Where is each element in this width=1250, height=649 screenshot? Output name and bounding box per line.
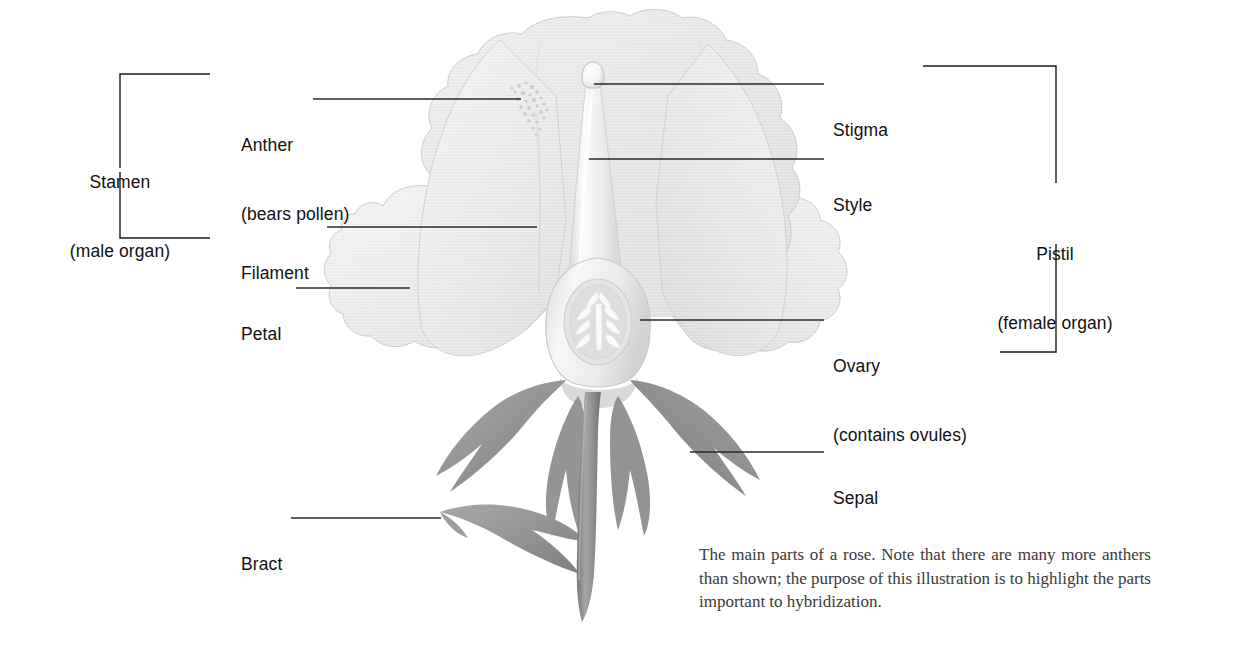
- bracket-label-pistil-line1: Pistil: [975, 243, 1135, 266]
- bract-leaf: [440, 505, 588, 574]
- label-petal: Petal: [241, 277, 281, 392]
- bracket-label-stamen: Stamen (male organ): [40, 125, 200, 309]
- bracket-label-stamen-line2: (male organ): [40, 240, 200, 263]
- label-sepal: Sepal: [833, 441, 878, 556]
- petal-front-left: [418, 40, 566, 356]
- label-petal-line1: Petal: [241, 323, 281, 346]
- figure-caption: The main parts of a rose. Note that ther…: [699, 543, 1151, 614]
- label-bract-line1: Bract: [241, 553, 282, 576]
- label-style-line1: Style: [833, 194, 872, 217]
- bracket-label-stamen-line1: Stamen: [40, 171, 200, 194]
- sepal-upper-right: [630, 380, 760, 496]
- label-sepal-line1: Sepal: [833, 487, 878, 510]
- sepal-lower-right: [610, 396, 650, 536]
- flower-drawing: [324, 9, 847, 622]
- label-ovary-line1: Ovary: [833, 355, 967, 378]
- label-style: Style: [833, 148, 872, 263]
- label-anther-line1: Anther: [241, 134, 349, 157]
- bracket-label-pistil: Pistil (female organ): [975, 197, 1135, 381]
- figure-canvas: Anther (bears pollen) Filament Petal Bra…: [0, 0, 1250, 649]
- label-stigma-line1: Stigma: [833, 119, 888, 142]
- bracket-label-pistil-line2: (female organ): [975, 312, 1135, 335]
- label-bract: Bract: [241, 507, 282, 622]
- sepal-upper-left: [436, 380, 566, 492]
